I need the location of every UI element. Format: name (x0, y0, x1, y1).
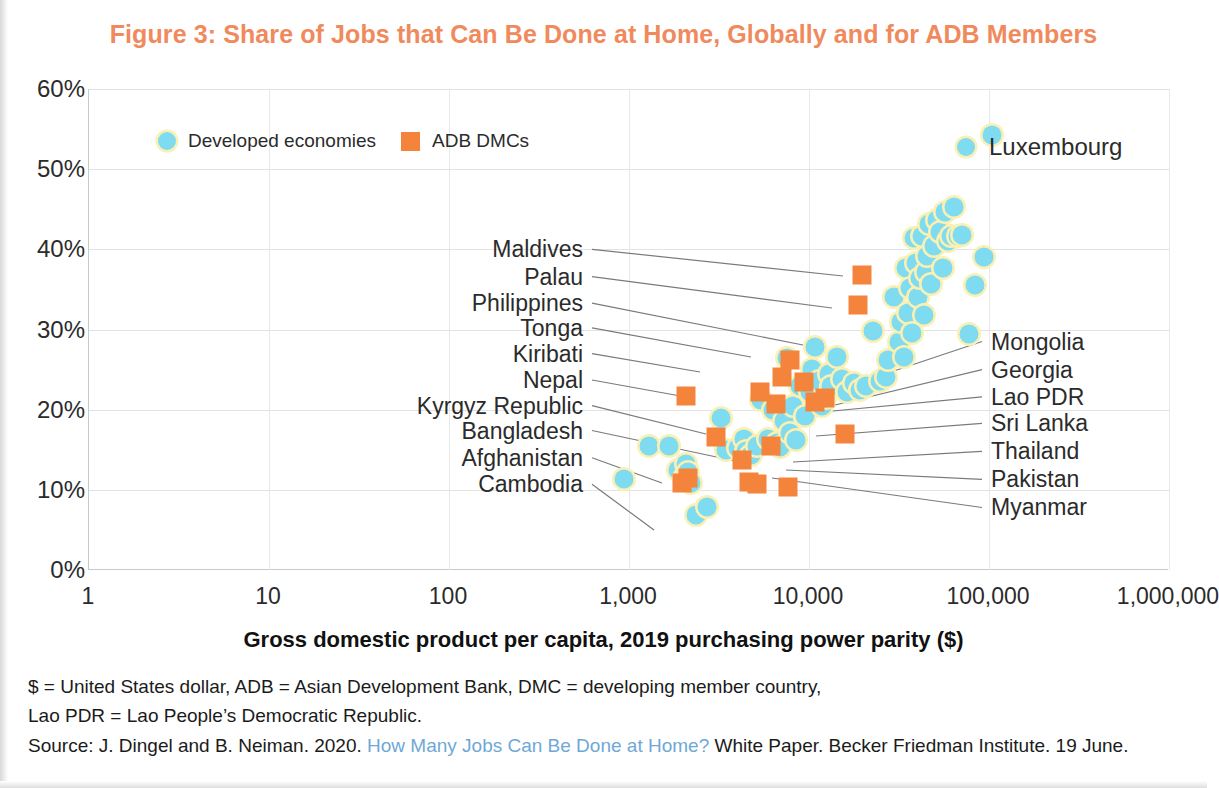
data-point-developed-economy (787, 431, 806, 450)
data-point-adb-dmc (773, 367, 792, 386)
data-point-developed-economy (933, 258, 952, 277)
annotation-label: Thailand (991, 440, 1079, 463)
data-point-developed-economy (864, 322, 883, 341)
data-point-developed-economy (614, 470, 633, 489)
data-point-adb-dmc (707, 427, 726, 446)
annotation-label: Nepal (523, 369, 583, 392)
gridline-vertical (809, 89, 810, 570)
annotation-label: Lao PDR (991, 385, 1084, 408)
circle-marker-icon (957, 138, 975, 156)
y-axis-tick-label: 0% (50, 558, 85, 582)
annotation-label: Georgia (991, 358, 1073, 381)
legend-label: ADB DMCs (432, 130, 529, 152)
data-point-developed-economy (959, 325, 978, 344)
gridline-vertical (449, 89, 450, 570)
data-point-adb-dmc (733, 451, 752, 470)
annotation-label: Tonga (520, 316, 583, 339)
x-axis-tick-label: 1 (82, 583, 95, 610)
note-source: Source: J. Dingel and B. Neiman. 2020. H… (28, 731, 1188, 760)
gridline-vertical (629, 89, 630, 570)
data-point-developed-economy (953, 225, 972, 244)
data-point-developed-economy (698, 497, 717, 516)
y-axis-tick-label: 10% (37, 478, 85, 502)
data-point-adb-dmc (794, 372, 813, 391)
gridline-vertical (269, 89, 270, 570)
data-point-adb-dmc (676, 387, 695, 406)
x-axis-title: Gross domestic product per capita, 2019 … (0, 627, 1207, 653)
data-point-developed-economy (921, 274, 940, 293)
annotation-label: Myanmar (991, 496, 1087, 519)
annotation-label: Bangladesh (462, 419, 584, 442)
data-point-adb-dmc (849, 296, 868, 315)
data-point-adb-dmc (761, 436, 780, 455)
legend-item-adb-dmcs: ADB DMCs (401, 130, 529, 152)
x-axis-tick-label: 10,000 (773, 583, 843, 610)
highlight-luxembourg: Luxembourg (957, 133, 1122, 161)
data-point-adb-dmc (766, 395, 785, 414)
data-point-adb-dmc (747, 475, 766, 494)
x-axis-tick-label: 100 (429, 583, 467, 610)
data-point-developed-economy (966, 276, 985, 295)
gridline-vertical (989, 89, 990, 570)
legend-item-developed-economies: Developed economies (158, 130, 376, 152)
data-point-developed-economy (806, 338, 825, 357)
legend-label: Developed economies (188, 130, 376, 152)
x-axis-tick-label: 100,000 (946, 583, 1029, 610)
x-axis-tick-label: 1,000,000 (1117, 583, 1219, 610)
circle-marker-icon (158, 132, 176, 150)
data-point-developed-economy (712, 408, 731, 427)
note-line-1: $ = United States dollar, ADB = Asian De… (28, 672, 1188, 701)
data-point-developed-economy (660, 436, 679, 455)
annotation-label: Sri Lanka (991, 412, 1088, 435)
y-axis-tick-label: 40% (37, 237, 85, 261)
source-link[interactable]: How Many Jobs Can Be Done at Home? (367, 735, 709, 756)
highlight-label: Luxembourg (989, 133, 1122, 161)
data-point-developed-economy (974, 248, 993, 267)
x-axis-tick-label: 10 (255, 583, 281, 610)
y-axis-tick-label: 50% (37, 157, 85, 181)
annotation-label: Kyrgyz Republic (417, 394, 583, 417)
source-prefix: Source: J. Dingel and B. Neiman. 2020. (28, 735, 367, 756)
data-point-developed-economy (894, 347, 913, 366)
annotation-label: Philippines (472, 292, 583, 315)
annotation-label: Pakistan (991, 468, 1079, 491)
source-suffix: White Paper. Becker Friedman Institute. … (709, 735, 1128, 756)
y-axis-tick-label: 30% (37, 318, 85, 342)
note-line-2: Lao PDR = Lao People’s Democratic Republ… (28, 701, 1188, 730)
annotation-label: Afghanistan (462, 446, 583, 469)
gridline-vertical (1169, 89, 1170, 570)
y-axis-tick-label: 60% (37, 77, 85, 101)
x-axis-tick-label: 1,000 (599, 583, 657, 610)
data-point-developed-economy (945, 197, 964, 216)
annotation-label: Mongolia (991, 330, 1084, 353)
data-point-adb-dmc (780, 350, 799, 369)
y-axis-tick-label: 20% (37, 398, 85, 422)
annotation-label: Maldives (492, 238, 583, 261)
data-point-developed-economy (903, 323, 922, 342)
data-point-adb-dmc (678, 468, 697, 487)
data-point-adb-dmc (778, 477, 797, 496)
square-marker-icon (401, 132, 420, 151)
annotation-label: Kiribati (513, 342, 583, 365)
data-point-developed-economy (914, 306, 933, 325)
data-point-developed-economy (639, 436, 658, 455)
annotation-label: Palau (524, 265, 583, 288)
data-point-adb-dmc (835, 424, 854, 443)
data-point-developed-economy (828, 347, 847, 366)
figure-notes: $ = United States dollar, ADB = Asian De… (28, 672, 1188, 760)
data-point-adb-dmc (816, 388, 835, 407)
annotation-label: Cambodia (478, 473, 583, 496)
data-point-developed-economy (876, 367, 895, 386)
data-point-adb-dmc (853, 265, 872, 284)
